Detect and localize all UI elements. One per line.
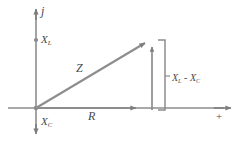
phasor-diagram-canvas: j XL XC Z R XL - XC + [0,0,243,143]
reactance-dash: - [182,72,190,83]
xc-subscript: C [48,121,53,128]
xl-subscript: L [48,39,52,46]
xc-base: X [41,115,48,127]
axis-label-plus: + [216,111,222,122]
xl-base: X [41,33,48,45]
axis-label-j: j [41,5,44,17]
reactance-lead-subscript: L [178,77,181,84]
vector-Z [36,43,145,108]
axis-label-xl: XL [41,34,52,45]
vector-label-z: Z [76,62,83,74]
reactance-lag-subscript: C [196,77,200,84]
vector-label-r: R [88,110,95,122]
reactance-bracket [158,40,165,110]
reactance-label: XL - XC [172,73,200,83]
axis-label-xc: XC [41,116,52,127]
diagram-svg [0,0,243,143]
